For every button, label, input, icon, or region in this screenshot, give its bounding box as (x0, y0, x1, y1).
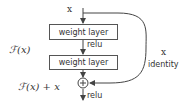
weight-layer-1: weight layer (49, 24, 118, 40)
shortcut-x-label: x (161, 48, 166, 57)
weight-layer-1-label: weight layer (59, 28, 109, 37)
residual-block-diagram: x weight layer relu weight layer ℱ(x) ℱ(… (0, 0, 192, 104)
residual-function-label: ℱ(x) (9, 45, 30, 55)
identity-label: identity (148, 61, 179, 69)
weight-layer-2-label: weight layer (59, 58, 109, 67)
input-x-label: x (67, 5, 72, 14)
sum-output-label: ℱ(x) + x (18, 82, 60, 92)
weight-layer-2: weight layer (49, 55, 118, 70)
relu-mid-label: relu (87, 41, 102, 49)
relu-out-label: relu (87, 92, 102, 100)
